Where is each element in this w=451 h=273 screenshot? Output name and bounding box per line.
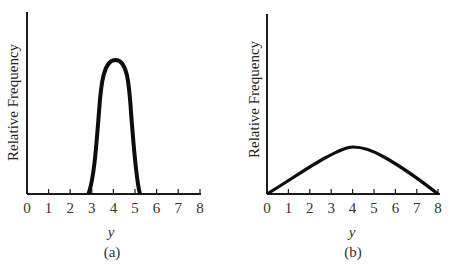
tick-label: 5: [131, 200, 139, 216]
panel-a-tick-labels: 0 1 2 3 4 5 6 7 8: [23, 200, 204, 216]
panel-a-ylabel: Relative Frequency: [5, 43, 21, 161]
tick-label: 2: [66, 200, 74, 216]
tick-label: 3: [327, 200, 335, 216]
tick-label: 4: [349, 200, 357, 216]
panel-a-caption: (a): [104, 244, 121, 261]
panel-b-xlabel: y: [347, 224, 356, 240]
tick-label: 7: [413, 200, 421, 216]
tick-label: 1: [285, 200, 293, 216]
panel-b-caption: (b): [344, 244, 362, 261]
panel-b-tick-labels: 0 1 2 3 4 5 6 7 8: [263, 200, 442, 216]
panel-a-xlabel: y: [106, 224, 115, 240]
tick-label: 3: [88, 200, 96, 216]
panel-a-curve: [89, 60, 141, 194]
panel-a: Relative Frequency 0 1 2 3 4 5 6 7 8: [5, 12, 204, 261]
tick-label: 6: [153, 200, 161, 216]
tick-label: 0: [263, 200, 271, 216]
tick-label: 5: [370, 200, 378, 216]
tick-label: 2: [306, 200, 314, 216]
tick-label: 4: [110, 200, 118, 216]
tick-label: 1: [45, 200, 53, 216]
tick-label: 8: [434, 200, 442, 216]
figure: Relative Frequency 0 1 2 3 4 5 6 7 8: [0, 0, 451, 273]
panel-b: Relative Frequency 0 1 2 3 4 5 6 7 8: [246, 14, 442, 261]
tick-label: 8: [196, 200, 204, 216]
tick-label: 6: [392, 200, 400, 216]
panel-b-curve: [267, 147, 438, 194]
tick-label: 7: [174, 200, 182, 216]
panel-b-ylabel: Relative Frequency: [246, 40, 262, 158]
tick-label: 0: [23, 200, 31, 216]
